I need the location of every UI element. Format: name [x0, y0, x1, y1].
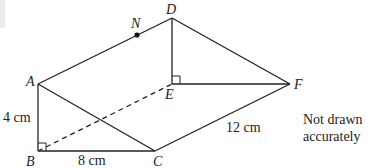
- edge-cf: [155, 84, 290, 151]
- label-f: F: [293, 77, 303, 92]
- label-b: B: [26, 154, 35, 168]
- label-a: A: [25, 74, 35, 89]
- label-e: E: [164, 87, 174, 102]
- measure-cf: 12 cm: [226, 120, 261, 135]
- edge-ad: [38, 18, 172, 84]
- measure-bc: 8 cm: [78, 153, 106, 168]
- note-line-2: accurately: [303, 129, 361, 144]
- note-line-1: Not drawn: [303, 112, 363, 127]
- right-angle-e: [172, 76, 180, 84]
- measure-ab: 4 cm: [3, 110, 31, 125]
- edge-be-hidden: [38, 84, 172, 151]
- edge-ac: [38, 84, 155, 151]
- prism-diagram: A B C D E F N 4 cm 8 cm 12 cm Not drawn …: [0, 0, 371, 168]
- label-d: D: [165, 2, 176, 17]
- edge-df: [172, 18, 290, 84]
- label-c: C: [153, 154, 163, 168]
- label-n: N: [130, 16, 141, 31]
- point-n: [134, 32, 139, 37]
